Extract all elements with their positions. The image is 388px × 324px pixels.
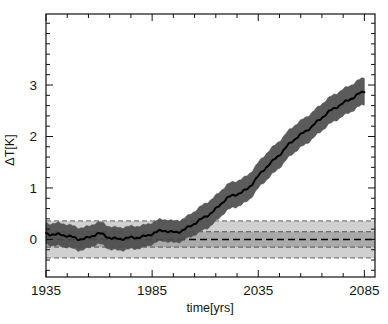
chart-canvas: 19351985203520850123 time[yrs] ΔT[K] bbox=[0, 0, 388, 324]
y-tick-label: 2 bbox=[29, 129, 37, 144]
x-axis-title: time[yrs] bbox=[186, 301, 233, 315]
x-tick-label: 1985 bbox=[137, 283, 167, 298]
x-tick-label: 2085 bbox=[349, 283, 379, 298]
chart-background bbox=[0, 0, 388, 324]
chart-figure: 19351985203520850123 time[yrs] ΔT[K] bbox=[0, 0, 388, 324]
x-tick-label: 2035 bbox=[243, 283, 273, 298]
y-axis-title: ΔT[K] bbox=[3, 134, 17, 165]
x-tick-label: 1935 bbox=[31, 283, 61, 298]
y-tick-label: 1 bbox=[29, 181, 37, 196]
y-tick-label: 3 bbox=[29, 78, 37, 93]
y-tick-label: 0 bbox=[29, 232, 37, 247]
